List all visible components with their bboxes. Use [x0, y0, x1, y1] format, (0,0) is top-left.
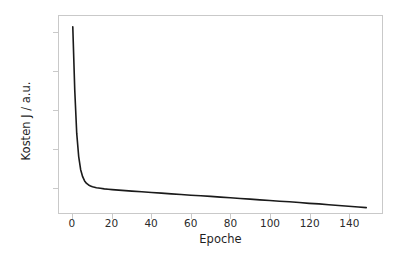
- x-tick-mark: [230, 214, 231, 219]
- cost-curve-figure: 0.040.060.080.100.12 020406080100120140 …: [0, 0, 405, 262]
- loss-curve: [59, 16, 382, 213]
- x-tick-mark: [112, 214, 113, 219]
- x-axis-label: Epoche: [58, 232, 383, 246]
- x-tick-mark: [151, 214, 152, 219]
- y-tick-mark: [53, 110, 58, 111]
- x-tick-mark: [349, 214, 350, 219]
- y-tick-mark: [53, 188, 58, 189]
- x-tick-mark: [72, 214, 73, 219]
- plot-area: [58, 15, 383, 214]
- y-tick-mark: [53, 71, 58, 72]
- x-tick-mark: [310, 214, 311, 219]
- y-tick-mark: [53, 32, 58, 33]
- x-tick-mark: [270, 214, 271, 219]
- x-tick-mark: [191, 214, 192, 219]
- y-tick-mark: [53, 149, 58, 150]
- y-axis-label: Kosten J / a.u.: [19, 41, 33, 201]
